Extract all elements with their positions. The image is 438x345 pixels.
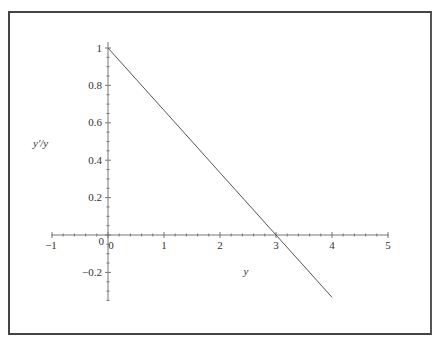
y-tick-label: 0.8 [88, 79, 102, 91]
x-tick-label: 2 [217, 239, 223, 251]
x-tick-label: 1 [161, 239, 167, 251]
y-tick-label: 0.4 [88, 154, 102, 166]
x-tick-label: 5 [385, 239, 391, 251]
data-line [108, 48, 332, 297]
x-tick-label: −1 [45, 239, 57, 251]
y-tick-label: 0.2 [88, 191, 102, 203]
x-tick-label: 3 [273, 239, 279, 251]
x-tick-label: 0 [108, 239, 114, 251]
chart: −1 0 1 2 3 4 5 −0.2 0 0.2 0.4 0.6 0.8 1 … [0, 0, 438, 345]
y-tick-label: 1 [97, 42, 103, 54]
x-axis-label: y [243, 265, 249, 277]
y-tick-label: 0.6 [88, 116, 102, 128]
y-tick-label: −0.2 [82, 266, 102, 278]
y-axis-label: y'/y [32, 137, 48, 149]
x-tick-label: 4 [329, 239, 335, 251]
y-tick-label: 0 [99, 235, 105, 247]
